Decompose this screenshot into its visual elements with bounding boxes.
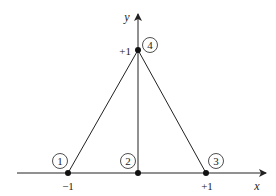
tick-x-pos: +1 bbox=[201, 180, 213, 192]
node-2-point bbox=[135, 170, 141, 176]
triangle-element-diagram: 1 2 3 4 −1 +1 +1 x y bbox=[0, 0, 276, 196]
tick-x-neg: −1 bbox=[62, 180, 74, 192]
node-1-point bbox=[65, 170, 71, 176]
node-3-label: 3 bbox=[213, 155, 219, 167]
edge-4-3 bbox=[138, 50, 206, 173]
node-3-point bbox=[203, 170, 209, 176]
x-axis-label: x bbox=[253, 179, 260, 193]
tick-y-pos: +1 bbox=[119, 45, 131, 57]
node-4-point bbox=[135, 47, 141, 53]
node-2-label: 2 bbox=[125, 155, 131, 167]
node-1-label: 1 bbox=[57, 155, 63, 167]
y-axis-label: y bbox=[123, 10, 130, 24]
node-4-label: 4 bbox=[147, 39, 153, 51]
